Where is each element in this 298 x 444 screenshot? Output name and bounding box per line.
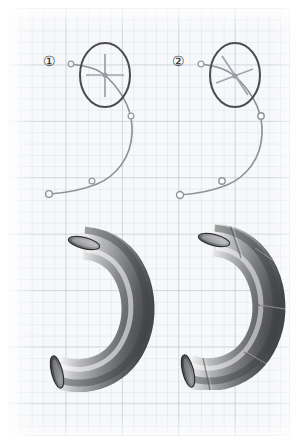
control-point-start[interactable] [198,61,204,67]
panel-2-label: ② [172,55,185,69]
control-point-start[interactable] [68,61,74,67]
panel-2-swept-tube [164,220,292,390]
panel-1-curve [50,64,132,194]
control-point-end[interactable] [46,191,53,198]
panel-1-label: ① [43,55,56,69]
panel-2-curve [180,64,262,195]
panel-1-swept-tube [34,222,158,392]
control-point-mid-upper[interactable] [258,113,264,119]
panel-2-diagram [177,43,265,199]
panel-1-control-points [46,61,134,197]
panel-1-diagram [46,43,134,197]
control-point-mid-lower[interactable] [219,178,225,184]
control-point-mid-lower[interactable] [89,178,95,184]
control-point-mid-upper[interactable] [128,113,134,119]
figure-container: ① ② [0,0,298,444]
control-point-end[interactable] [177,192,184,199]
